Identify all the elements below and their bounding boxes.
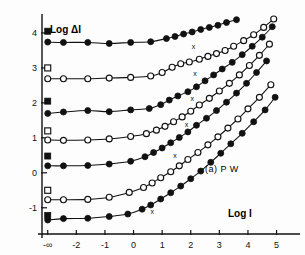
series-layer [45,16,278,223]
y-tick-label: 4 [32,28,37,38]
data-point-open [60,137,66,143]
data-point-open [196,56,202,62]
data-point-filled [188,176,194,182]
data-point-filled [146,105,152,111]
data-point-open [60,197,66,203]
data-point-open [215,134,221,140]
data-point-filled [198,26,204,32]
data-point-filled [172,33,178,39]
data-point-open [143,131,149,137]
data-point-filled [249,43,255,49]
reference-square-filled [45,98,51,104]
data-point-filled [85,162,91,168]
data-point-open [261,24,267,30]
data-point-filled [85,39,91,45]
data-point-filled [259,34,265,40]
x-tick-label: 1 [160,240,165,250]
data-point-filled [139,206,145,212]
x-tick-label: -2 [72,240,80,250]
data-point-open [251,32,257,38]
data-point-filled [151,150,157,156]
data-point-filled [213,108,219,114]
data-point-filled [45,39,51,45]
data-point-filled [239,52,245,58]
data-point-open [186,59,192,65]
figure-panel: -∞-2-101234543210-1xxxxxx Log ΔI Log I (… [0,0,305,255]
data-point-filled [158,196,164,202]
data-point-filled [215,22,221,28]
data-point-open [106,136,112,142]
data-point-open [85,196,91,202]
y-axis-label: Log ΔI [50,24,81,35]
data-point-open [213,51,219,57]
data-point-filled [219,66,225,72]
data-point-open [226,80,232,86]
data-point-open [158,175,164,181]
data-point-open [195,150,201,156]
break-point-x-marker: x [185,121,189,128]
data-point-filled [239,130,245,136]
data-point-filled [193,122,199,128]
data-point-open [271,16,277,22]
reference-square-open [45,65,51,71]
data-point-filled [224,19,230,25]
reference-square-open [45,128,51,134]
data-point-filled [106,161,112,167]
data-point-open [149,180,155,186]
data-point-open [196,102,202,108]
y-tick-label: 2 [32,98,37,108]
data-point-filled [60,163,66,169]
data-point-filled [106,109,112,115]
data-point-filled [128,158,134,164]
data-point-filled [181,31,187,37]
break-point-x-marker: x [190,95,194,102]
x-tick-label: 5 [274,240,279,250]
data-point-open [85,137,91,143]
reference-square-filled [45,212,51,218]
data-point-filled [45,163,51,169]
data-point-open [225,125,231,131]
data-point-open [128,133,134,139]
break-point-x-marker: x [192,43,196,50]
data-point-filled [106,214,112,220]
data-point-open [185,157,191,163]
y-tick-label: 3 [32,63,37,73]
data-point-filled [185,89,191,95]
reference-square-filled [45,153,51,159]
data-series [45,82,274,203]
data-point-filled [272,94,278,100]
data-point-open [222,47,228,53]
series-line [48,61,267,166]
data-point-filled [189,29,195,35]
data-point-filled [264,58,270,64]
data-point-filled [234,90,240,96]
data-point-filled [244,80,250,86]
panel-annotation: (a) P W [205,164,239,174]
x-tick-label: 0 [131,240,136,250]
data-point-filled [85,215,91,221]
data-point-filled [158,102,164,108]
data-point-filled [193,84,199,90]
data-point-open [85,76,91,82]
plot-canvas: -∞-2-101234543210-1xxxxxx [0,0,305,255]
x-tick-label: 2 [188,240,193,250]
data-point-open [178,61,184,67]
y-tick-label: -1 [29,203,37,213]
data-point-filled [269,24,275,30]
data-point-open [141,185,147,191]
data-point-filled [45,110,51,116]
data-point-open [45,76,51,82]
x-tick-label: -∞ [43,240,52,250]
break-point-x-marker: x [173,152,177,159]
data-point-open [235,116,241,122]
data-point-open [241,38,247,44]
data-point-open [60,76,66,82]
x-tick-label: -1 [101,240,109,250]
data-point-filled [224,99,230,105]
data-point-filled [148,39,154,45]
break-point-x-marker: x [150,208,154,215]
data-point-filled [206,24,212,30]
data-point-filled [202,78,208,84]
data-point-filled [254,69,260,75]
data-point-open [266,41,272,47]
